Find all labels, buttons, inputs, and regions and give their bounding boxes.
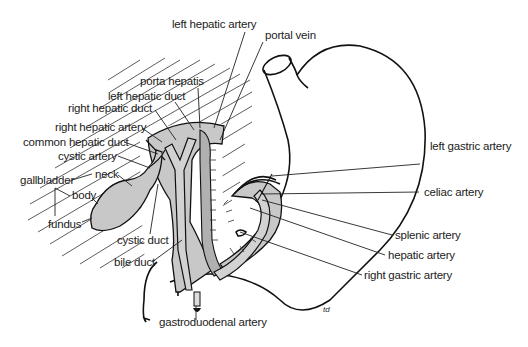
label-right-hepatic-artery: right hepatic artery <box>55 121 147 133</box>
label-celiac-artery: celiac artery <box>424 186 484 198</box>
label-cystic-artery: cystic artery <box>58 150 117 162</box>
label-porta-hepatis: porta hepatis <box>140 75 204 87</box>
celiac-branches <box>214 174 282 280</box>
gastroduodenal-stub <box>193 292 201 312</box>
label-fundus: fundus <box>48 218 82 230</box>
label-hepatic-artery: hepatic artery <box>388 249 455 261</box>
label-gallbladder: gallbladder <box>20 174 74 186</box>
label-gastroduodenal-artery: gastroduodenal artery <box>159 316 267 328</box>
label-neck: neck <box>95 168 119 180</box>
label-left-hepatic-artery: left hepatic artery <box>172 18 257 30</box>
label-bile-duct: bile duct <box>114 256 156 268</box>
anatomy-diagram: left hepatic artery portal vein porta he… <box>0 0 528 347</box>
label-splenic-artery: splenic artery <box>395 229 461 241</box>
label-left-gastric-artery: left gastric artery <box>430 140 512 152</box>
label-common-hepatic-duct: common hepatic duct <box>23 136 130 148</box>
label-left-hepatic-duct: left hepatic duct <box>108 90 186 102</box>
label-right-hepatic-duct: right hepatic duct <box>68 102 153 114</box>
artist-signature: td <box>323 305 330 314</box>
label-cystic-duct: cystic duct <box>117 234 169 246</box>
label-body: body <box>72 189 97 201</box>
label-right-gastric-artery: right gastric artery <box>364 269 452 281</box>
label-portal-vein: portal vein <box>265 29 316 41</box>
